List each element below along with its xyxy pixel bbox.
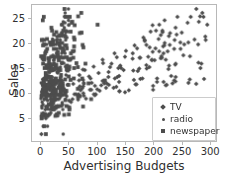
x-tick-mark — [153, 142, 154, 145]
legend-label-tv: TV — [170, 102, 182, 112]
x-tick-label: 50 — [62, 146, 75, 157]
x-tick-mark — [68, 142, 69, 145]
legend-item-radio[interactable]: radio — [156, 113, 211, 125]
x-tick-mark — [210, 142, 211, 145]
y-tick-mark — [28, 68, 31, 69]
legend-item-newspaper[interactable]: newspaper — [156, 125, 211, 137]
x-tick-mark — [182, 142, 183, 145]
y-tick-mark — [28, 93, 31, 94]
x-axis-label: Advertising Budgets — [31, 159, 217, 173]
x-tick-mark — [40, 142, 41, 145]
y-tick-mark — [28, 43, 31, 44]
x-tick-label: 150 — [116, 146, 135, 157]
x-tick-mark — [125, 142, 126, 145]
legend-item-tv[interactable]: TV — [156, 101, 211, 113]
legend-label-newspaper: newspaper — [170, 126, 219, 136]
square-marker-icon — [156, 129, 170, 133]
legend-label-radio: radio — [170, 114, 193, 124]
y-tick-mark — [28, 18, 31, 19]
scatter-plot-figure: 050100150200250300510152025 Advertising … — [0, 0, 246, 179]
circle-marker-icon — [156, 118, 170, 121]
x-tick-label: 250 — [172, 146, 191, 157]
y-axis-label: Sales — [7, 40, 21, 120]
chart-legend[interactable]: TV radio newspaper — [152, 97, 216, 141]
y-tick-mark — [28, 118, 31, 119]
x-tick-mark — [97, 142, 98, 145]
x-tick-label: 100 — [87, 146, 106, 157]
y-tick-label: 25 — [12, 13, 25, 24]
diamond-marker-icon — [156, 105, 170, 109]
x-tick-label: 0 — [37, 146, 43, 157]
x-tick-label: 300 — [201, 146, 220, 157]
x-tick-label: 200 — [144, 146, 163, 157]
